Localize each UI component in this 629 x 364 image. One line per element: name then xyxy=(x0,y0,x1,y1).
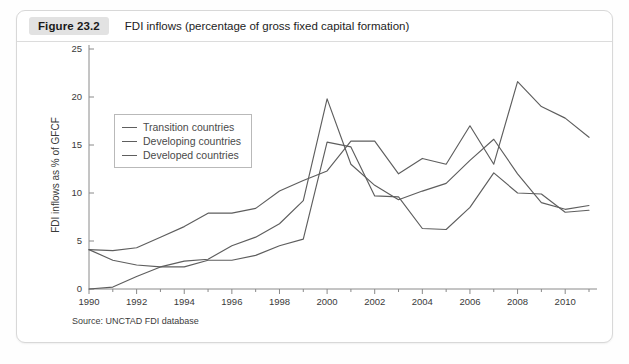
svg-text:20: 20 xyxy=(71,91,82,102)
svg-text:2008: 2008 xyxy=(507,296,528,307)
legend-swatch-transition xyxy=(122,127,137,128)
legend-label-transition: Transition countries xyxy=(143,121,234,133)
svg-text:1994: 1994 xyxy=(174,296,195,307)
svg-text:2004: 2004 xyxy=(412,296,433,307)
svg-text:15: 15 xyxy=(71,139,82,150)
figure-caption: FDI inflows (percentage of gross fixed c… xyxy=(125,20,409,32)
page-root: Figure 23.2 FDI inflows (percentage of g… xyxy=(0,0,629,364)
svg-text:0: 0 xyxy=(77,283,82,294)
figure-card: Figure 23.2 FDI inflows (percentage of g… xyxy=(16,10,613,343)
svg-text:FDI inflows as % of GFCF: FDI inflows as % of GFCF xyxy=(50,117,61,233)
legend-item-developing: Developing countries xyxy=(122,134,241,148)
svg-text:2006: 2006 xyxy=(459,296,480,307)
figure-body: 0510152025199019921994199619982000200220… xyxy=(17,42,612,344)
svg-text:2002: 2002 xyxy=(364,296,385,307)
svg-text:1996: 1996 xyxy=(221,296,242,307)
svg-text:2000: 2000 xyxy=(317,296,338,307)
source-note: Source: UNCTAD FDI database xyxy=(72,316,199,326)
svg-text:10: 10 xyxy=(71,187,82,198)
figure-header: Figure 23.2 FDI inflows (percentage of g… xyxy=(17,11,612,42)
legend-label-developing: Developing countries xyxy=(143,135,241,147)
chart-axes: 0510152025199019921994199619982000200220… xyxy=(50,43,597,307)
legend-swatch-developing xyxy=(122,141,137,142)
svg-text:1990: 1990 xyxy=(78,296,99,307)
legend-swatch-developed xyxy=(122,155,137,156)
svg-text:25: 25 xyxy=(71,43,82,54)
legend-label-developed: Developed countries xyxy=(143,149,239,161)
chart-plot-area: 0510152025199019921994199619982000200220… xyxy=(17,42,614,344)
svg-text:2010: 2010 xyxy=(555,296,576,307)
legend-item-transition: Transition countries xyxy=(122,120,241,134)
chart-series xyxy=(89,82,589,289)
chart-legend: Transition countries Developing countrie… xyxy=(114,114,252,168)
svg-text:5: 5 xyxy=(77,235,82,246)
line-chart-svg: 0510152025199019921994199619982000200220… xyxy=(17,42,614,344)
svg-text:1992: 1992 xyxy=(126,296,147,307)
legend-item-developed: Developed countries xyxy=(122,148,241,162)
figure-number-badge: Figure 23.2 xyxy=(29,17,109,35)
svg-text:1998: 1998 xyxy=(269,296,290,307)
